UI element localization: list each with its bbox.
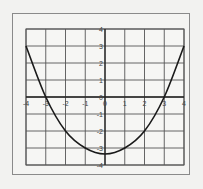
parabola-chart: -4-3-2-10123443210-1-2-3-4 bbox=[0, 0, 203, 189]
y-tick-label: -4 bbox=[97, 162, 103, 169]
y-tick-label: 2 bbox=[99, 60, 103, 67]
y-tick-label: -3 bbox=[97, 145, 103, 152]
x-tick-label: -2 bbox=[62, 100, 68, 107]
x-tick-label: 1 bbox=[123, 100, 127, 107]
x-tick-label: 0 bbox=[103, 100, 107, 107]
x-tick-label: 2 bbox=[143, 100, 147, 107]
x-tick-label: -1 bbox=[82, 100, 88, 107]
y-tick-label: -1 bbox=[97, 111, 103, 118]
y-tick-label: 4 bbox=[99, 26, 103, 33]
x-tick-label: -4 bbox=[23, 100, 29, 107]
x-tick-label: 4 bbox=[182, 100, 186, 107]
y-tick-label: 1 bbox=[99, 77, 103, 84]
y-tick-label: 0 bbox=[99, 94, 103, 101]
y-tick-label: 3 bbox=[99, 43, 103, 50]
y-tick-label: -2 bbox=[97, 128, 103, 135]
